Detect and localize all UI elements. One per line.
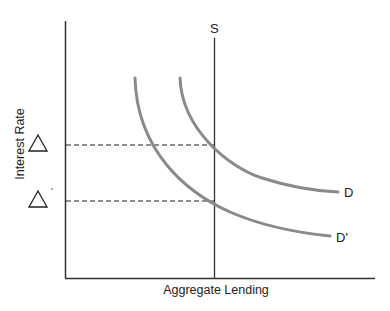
x-axis-label: Aggregate Lending [163, 283, 269, 297]
delta-triangle-icon [29, 135, 47, 151]
supply-label: S [210, 21, 219, 36]
demand-curve-d [180, 78, 338, 192]
diagram-canvas: ' S D D' Aggregate Lending Interest Rate [0, 0, 390, 311]
delta-prime-tick: ' [51, 186, 53, 196]
y-axis-label: Interest Rate [13, 108, 27, 180]
delta-prime-triangle-icon [29, 191, 47, 207]
demand-curve-d-prime [135, 78, 330, 236]
demand-shifted-label: D' [336, 230, 348, 245]
demand-label: D [344, 185, 353, 200]
